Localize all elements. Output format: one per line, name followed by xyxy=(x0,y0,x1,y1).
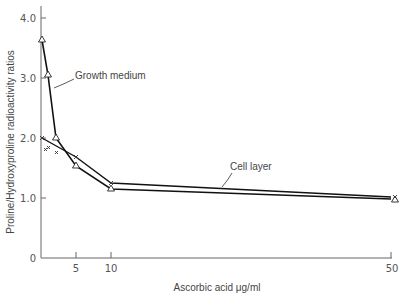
growth-medium-line xyxy=(42,40,391,199)
x-tick-5: 5 xyxy=(73,263,79,274)
growth-medium-annotation: Growth medium xyxy=(75,70,146,81)
x-tick-10: 10 xyxy=(105,263,118,274)
y-tick-4: 4.0 xyxy=(20,13,36,24)
y-tick-0: 0 xyxy=(30,253,36,264)
y-tick-1: 1.0 xyxy=(20,193,36,204)
x-tick-50: 50 xyxy=(386,263,399,274)
cell-layer-line xyxy=(42,138,391,197)
growth-medium-pointer xyxy=(54,79,74,88)
chart: 4.0 3.0 2.0 1.0 0 5 10 50 Ascorbic acid … xyxy=(0,0,407,294)
y-axis-label: Proline/Hydroxyproline radioactivity rat… xyxy=(5,50,16,233)
y-tick-3: 3.0 xyxy=(20,73,36,84)
y-tick-2: 2.0 xyxy=(20,133,36,144)
cell-layer-markers xyxy=(40,136,397,199)
x-axis-label: Ascorbic acid μg/ml xyxy=(174,282,261,293)
cell-layer-pointer xyxy=(222,173,232,187)
x-ticks: 5 10 50 xyxy=(73,252,399,274)
cell-layer-annotation: Cell layer xyxy=(230,161,272,172)
